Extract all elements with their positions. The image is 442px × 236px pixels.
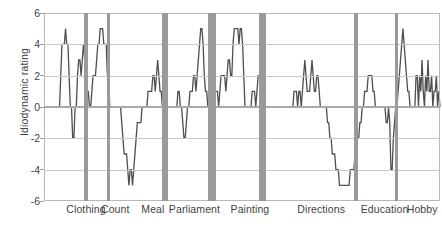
gridline xyxy=(44,76,440,77)
y-tick-mark xyxy=(40,107,44,108)
x-category-label: Count xyxy=(101,203,130,215)
category-separator xyxy=(107,13,110,201)
y-tick-mark xyxy=(40,44,44,45)
category-separator xyxy=(84,13,87,201)
gridline xyxy=(44,138,440,139)
x-category-label: Meal xyxy=(141,203,164,215)
y-tick-label: -2 xyxy=(31,132,40,144)
x-category-label: Painting xyxy=(231,203,270,215)
plot-border-top xyxy=(44,13,440,14)
x-category-label: Parliament xyxy=(169,203,220,215)
plot-border-bottom xyxy=(44,200,440,201)
category-separator xyxy=(395,13,398,201)
category-separator xyxy=(208,13,216,201)
gridline xyxy=(44,170,440,171)
category-separator xyxy=(259,13,266,201)
plot-area xyxy=(44,13,440,201)
category-separator xyxy=(354,13,358,201)
figure-caption xyxy=(6,224,436,234)
x-category-label: Education xyxy=(361,203,409,215)
chart-figure: Idiodynamic rating 6420-2-4-6 ClothingCo… xyxy=(0,0,442,236)
y-tick-mark xyxy=(40,138,44,139)
y-tick-mark xyxy=(40,75,44,76)
y-tick-label: -4 xyxy=(31,164,40,176)
gridline xyxy=(44,44,440,45)
y-tick-mark xyxy=(40,169,44,170)
y-tick-mark xyxy=(40,13,44,14)
x-category-label: Clothing xyxy=(66,203,105,215)
x-axis-category-labels: ClothingCountMealParliamentPaintingDirec… xyxy=(0,203,442,223)
y-tick-mark xyxy=(40,201,44,202)
category-separator xyxy=(162,13,168,201)
x-category-label: Directions xyxy=(297,203,345,215)
zero-gridline xyxy=(44,106,440,108)
x-category-label: Hobby xyxy=(407,203,438,215)
y-axis-tick-labels: 6420-2-4-6 xyxy=(20,0,40,236)
